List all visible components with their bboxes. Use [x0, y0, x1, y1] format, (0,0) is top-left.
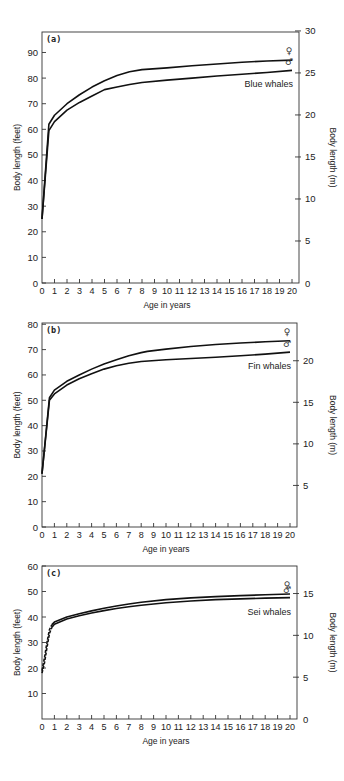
x-tick-label: 12 [186, 530, 196, 540]
y-axis-title-left: Body length (feet) [12, 124, 22, 191]
y-tick-label: 50 [27, 586, 38, 597]
x-tick-label: 0 [39, 286, 44, 296]
x-tick-label: 2 [64, 286, 69, 296]
panel-c: (c)1020304050600510150123456789101112131… [12, 561, 338, 747]
x-tick-label: 5 [102, 286, 107, 296]
x-tick-label: 3 [77, 286, 82, 296]
species-label: Fin whales [248, 361, 292, 371]
y-tick-label: 60 [27, 124, 38, 135]
x-tick-label: 17 [248, 530, 258, 540]
x-axis-title: Age in years [142, 736, 189, 746]
y-tick-label: 50 [27, 149, 38, 160]
y-tick-label: 40 [27, 175, 38, 186]
y-tick-label: 30 [27, 445, 38, 456]
x-tick-label: 16 [237, 286, 247, 296]
y-tick-label: 60 [27, 369, 38, 380]
x-tick-label: 20 [285, 722, 295, 732]
x-tick-label: 17 [248, 722, 258, 732]
x-tick-label: 11 [174, 530, 183, 540]
panel-b: (b)0102030405060708051015200123456789101… [12, 319, 338, 554]
y-right-tick-label: 15 [305, 151, 316, 162]
x-tick-label: 9 [152, 286, 157, 296]
y-tick-label: 0 [33, 278, 38, 289]
x-tick-label: 8 [139, 286, 144, 296]
y-tick-label: 30 [27, 637, 38, 648]
y-right-tick-label: 25 [305, 67, 316, 78]
male-symbol-icon: ♂ [285, 57, 293, 67]
x-tick-label: 7 [126, 722, 131, 732]
y-right-tick-label: 20 [305, 109, 316, 120]
y-axis-title-right: Body length (m) [328, 395, 338, 455]
x-tick-label: 13 [199, 286, 209, 296]
y-right-tick-label: 5 [303, 672, 308, 683]
y-tick-label: 20 [27, 226, 38, 237]
x-tick-label: 14 [211, 722, 221, 732]
x-tick-label: 6 [114, 286, 119, 296]
x-tick-label: 14 [211, 530, 221, 540]
x-tick-label: 18 [260, 722, 270, 732]
x-tick-label: 7 [126, 530, 131, 540]
x-tick-label: 14 [212, 286, 222, 296]
y-tick-label: 10 [27, 496, 38, 507]
x-tick-label: 10 [161, 722, 171, 732]
x-tick-label: 8 [139, 530, 144, 540]
x-tick-label: 13 [198, 530, 208, 540]
x-tick-label: 18 [262, 286, 272, 296]
x-axis-title: Age in years [143, 300, 190, 310]
x-tick-label: 19 [273, 530, 283, 540]
x-tick-label: 4 [89, 286, 94, 296]
x-tick-label: 20 [287, 286, 297, 296]
x-tick-label: 5 [101, 530, 106, 540]
male-symbol-icon: ♂ [283, 339, 291, 349]
y-tick-label: 80 [27, 73, 38, 84]
y-tick-label: 80 [27, 319, 38, 330]
y-tick-label: 20 [27, 471, 38, 482]
y-tick-label: 20 [27, 663, 38, 674]
x-tick-label: 4 [89, 722, 94, 732]
x-tick-label: 0 [39, 530, 44, 540]
y-tick-label: 70 [27, 344, 38, 355]
x-tick-label: 6 [114, 530, 119, 540]
x-tick-label: 15 [224, 286, 234, 296]
y-tick-label: 90 [27, 47, 38, 58]
female-symbol-icon: ♀ [284, 327, 291, 337]
x-tick-label: 1 [52, 286, 57, 296]
x-tick-label: 5 [101, 722, 106, 732]
y-right-tick-label: 10 [305, 193, 316, 204]
x-tick-label: 20 [285, 530, 295, 540]
panel-label: (c) [46, 568, 61, 578]
x-tick-label: 4 [89, 530, 94, 540]
y-tick-label: 40 [27, 420, 38, 431]
y-right-tick-label: 15 [303, 588, 314, 599]
x-tick-label: 13 [198, 722, 208, 732]
y-axis-title-left: Body length (feet) [12, 609, 22, 676]
y-right-tick-label: 10 [303, 630, 314, 641]
y-tick-label: 0 [33, 522, 38, 533]
x-tick-label: 16 [235, 530, 245, 540]
x-tick-label: 19 [274, 286, 284, 296]
x-tick-label: 1 [52, 722, 57, 732]
curve-male [42, 70, 292, 219]
x-tick-label: 19 [273, 722, 283, 732]
y-right-tick-label: 10 [303, 438, 314, 449]
x-tick-label: 3 [77, 530, 82, 540]
x-tick-label: 18 [260, 530, 270, 540]
y-right-tick-label: 0 [303, 714, 308, 725]
x-tick-label: 6 [114, 722, 119, 732]
y-tick-label: 10 [27, 252, 38, 263]
panel-a: (a)0102030405060708090051015202530012345… [12, 25, 338, 310]
x-tick-label: 2 [64, 722, 69, 732]
y-right-tick-label: 15 [303, 397, 314, 408]
chart-canvas: (a)0102030405060708090051015202530012345… [0, 0, 344, 781]
female-symbol-icon: ♀ [286, 46, 293, 56]
x-tick-label: 10 [161, 530, 171, 540]
x-tick-label: 15 [223, 530, 233, 540]
x-tick-label: 9 [151, 722, 156, 732]
x-tick-label: 2 [64, 530, 69, 540]
y-right-tick-label: 5 [303, 480, 308, 491]
x-tick-label: 9 [151, 530, 156, 540]
x-tick-label: 0 [39, 722, 44, 732]
panel-label: (b) [46, 325, 61, 335]
y-right-tick-label: 0 [305, 278, 310, 289]
y-right-tick-label: 20 [303, 355, 314, 366]
